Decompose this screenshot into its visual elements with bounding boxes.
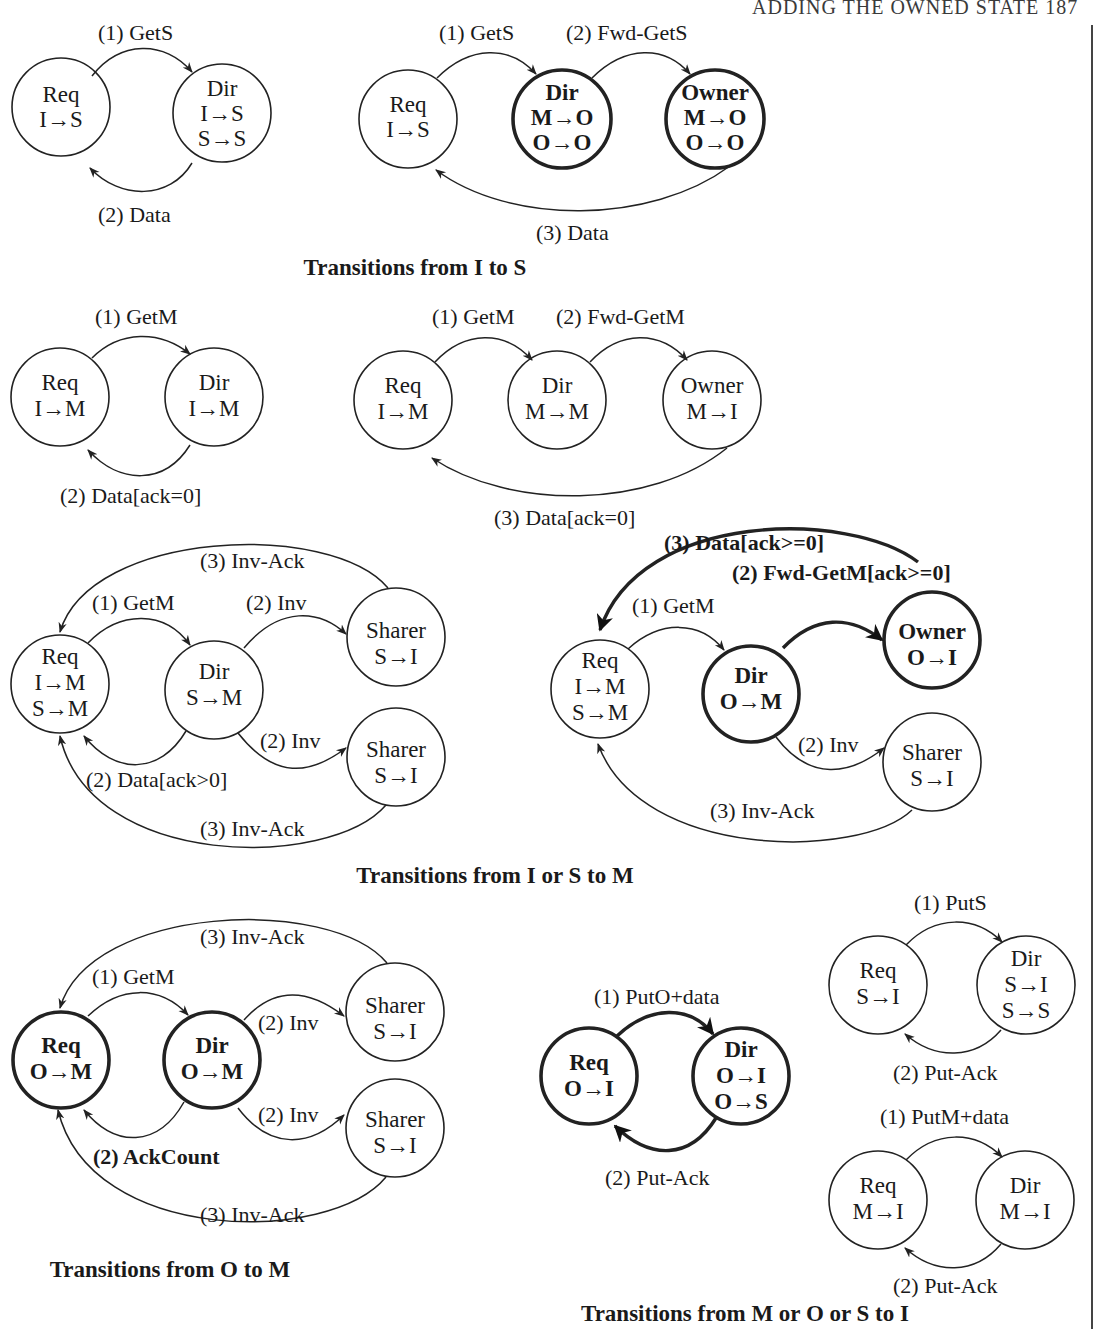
edge-label: (1) PutO+data [594,984,720,1009]
edge-label: (1) PutM+data [880,1104,1009,1129]
node-label: Req [389,92,427,117]
edge-arrow [435,338,532,362]
edge-label: (1) PutS [914,890,987,915]
diagram-s-to-i: Req S→I Dir S→I S→S (1) PutS (2) Put-Ack [829,890,1075,1085]
coherence-transition-diagrams: ADDING THE OWNED STATE 187 Req I→S Dir I… [0,0,1102,1329]
node-label: Dir [724,1037,757,1062]
node-state: I→M [188,396,239,421]
diagram-i-to-s-owner: Req I→S Dir M→O O→O Owner M→O O→O (1) Ge… [359,20,764,245]
diagram-i-to-s-simple: Req I→S Dir I→S S→S (1) GetS (2) Data [12,20,271,227]
edge-label: (1) GetM [432,304,514,329]
edge-arrow [905,1030,1001,1053]
edge-label: (3) Data[ack>=0] [664,530,824,555]
node-label: Owner [681,373,744,398]
node-state: M→I [999,1199,1050,1224]
node-state: M→O [684,105,747,130]
node-state: S→M [186,685,242,710]
node-label: Req [859,1173,897,1198]
edge-arrow-bold [617,1012,713,1036]
edge-arrow [244,616,346,648]
node-label: Req [42,82,80,107]
diagram-m-to-i: Req M→I Dir M→I (1) PutM+data (2) Put-Ac… [829,1104,1074,1298]
node-state: I→M [34,670,85,695]
caption-i-to-s: Transitions from I to S [304,255,527,280]
node-state: I→S [200,101,243,126]
edge-arrow [590,338,687,362]
edge-arrow [905,1244,1001,1268]
edge-label: (2) Inv [258,1102,318,1127]
node-label: Sharer [365,1107,425,1132]
node-label: Owner [681,80,749,105]
edge-label: (3) Inv-Ack [200,548,304,573]
edge-label: (1) GetM [95,304,177,329]
node-label: Req [41,644,79,669]
node-label: Dir [545,80,578,105]
node-state: O→M [720,689,783,714]
edge-arrow [84,1102,184,1138]
edge-arrow [92,48,192,76]
node-label: Dir [199,659,230,684]
edge-label: (3) Data [536,220,609,245]
caption-o-to-m: Transitions from O to M [50,1257,291,1282]
edge-arrow [432,448,727,496]
node-state: I→M [34,396,85,421]
node-state: S→S [1002,998,1051,1023]
node-label: Req [569,1050,609,1075]
node-state: S→M [32,696,88,721]
edge-label: (1) GetM [632,593,714,618]
node-state: S→I [373,1019,416,1044]
node-state: O→O [686,130,745,155]
node-state: I→S [386,117,429,142]
node-state: S→I [374,763,417,788]
node-state: S→I [856,984,899,1009]
edge-arrow [88,993,188,1016]
caption-i-or-s-to-m: Transitions from I or S to M [356,863,634,888]
edge-label: (3) Inv-Ack [200,924,304,949]
edge-label: (2) Fwd-GetS [566,20,688,45]
edge-arrow [437,53,536,78]
edge-label: (2) Inv [260,728,320,753]
edge-arrow [90,163,192,191]
node-state: M→O [531,105,594,130]
edge-arrow [598,744,912,842]
node-label: Req [859,958,897,983]
edge-arrow [906,1137,1002,1160]
node-label: Dir [542,373,573,398]
edge-arrow-bold [615,1118,716,1151]
node-state: M→M [525,399,589,424]
edge-arrow [92,336,190,358]
edge-arrow [84,731,186,765]
node-state: S→I [1004,972,1047,997]
edge-label: (2) Fwd-GetM [556,304,685,329]
edge-label: (1) GetM [92,590,174,615]
node-state: O→I [716,1063,766,1088]
node-label: Dir [207,76,238,101]
edge-label: (2) Data[ack>0] [86,767,227,792]
node-label: Dir [1011,946,1042,971]
edge-label: (3) Data[ack=0] [494,505,635,530]
edge-label: (2) Fwd-GetM[ack>=0] [732,560,951,585]
caption-m-o-s-to-i: Transitions from M or O or S to I [581,1301,909,1326]
node-state: M→I [852,1199,903,1224]
edge-label: (1) GetM [92,964,174,989]
node-state: O→O [533,130,592,155]
diagram-o-to-m: Req O→M Dir O→M Sharer S→I Sharer S→I (3… [13,920,444,1227]
diagram-i-to-m-owner: Req I→M Dir M→M Owner M→I (1) GetM (2) F… [354,304,761,530]
node-state: I→S [39,107,82,132]
node-label: Req [41,1033,81,1058]
diagram-i-or-s-to-m-sharers: Req I→M S→M Dir S→M Sharer S→I Sharer S→… [11,545,445,848]
node-state: I→M [574,674,625,699]
edge-arrow [88,445,190,476]
node-state: O→M [181,1059,244,1084]
node-label: Sharer [902,740,962,765]
node-label: Req [41,370,79,395]
diagram-i-to-m-simple: Req I→M Dir I→M (1) GetM (2) Data[ack=0] [11,304,263,508]
node-label: Sharer [365,993,425,1018]
node-label: Sharer [366,618,426,643]
edge-label: (3) Inv-Ack [710,798,814,823]
node-state: S→I [374,644,417,669]
page-header: ADDING THE OWNED STATE 187 [752,0,1078,18]
node-label: Owner [898,619,966,644]
edge-label: (2) Data[ack=0] [60,483,201,508]
edge-label: (2) Inv [258,1010,318,1035]
